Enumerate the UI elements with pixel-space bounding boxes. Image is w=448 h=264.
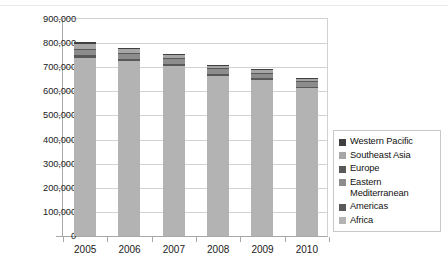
legend-item-label: Africa: [350, 215, 373, 226]
legend-swatch-icon: [339, 217, 346, 224]
bar-segment[interactable]: [251, 80, 273, 236]
bar-column[interactable]: [207, 65, 229, 236]
x-axis-tick-mark: [329, 237, 330, 242]
legend-swatch-icon: [339, 166, 346, 173]
chart-legend: Western PacificSoutheast AsiaEuropeEaste…: [333, 130, 441, 232]
legend-swatch-icon: [339, 139, 346, 146]
y-axis-tick-mark: [56, 19, 62, 20]
bar-column[interactable]: [251, 69, 273, 236]
bar-segment[interactable]: [296, 88, 318, 236]
y-axis-tick-mark: [56, 236, 62, 237]
y-axis-tick-mark: [56, 43, 62, 44]
bar-slot: [240, 19, 284, 236]
y-axis-tick-mark: [56, 115, 62, 116]
legend-item-label: Eastern Mediterranean: [350, 177, 436, 199]
stacked-bar-chart: 0100,000200,000300,000400,000500,000600,…: [0, 0, 448, 264]
legend-item[interactable]: Eastern Mediterranean: [339, 177, 436, 199]
legend-item-label: Americas: [350, 201, 388, 212]
legend-item[interactable]: Africa: [339, 215, 436, 226]
x-axis-tick-mark: [240, 237, 241, 242]
bar-column[interactable]: [74, 42, 96, 236]
y-axis-tick-mark: [56, 164, 62, 165]
legend-item-label: Europe: [350, 163, 379, 174]
bar-column[interactable]: [296, 78, 318, 236]
legend-item[interactable]: Southeast Asia: [339, 150, 436, 161]
legend-swatch-icon: [339, 152, 346, 159]
x-axis-tick-mark: [196, 237, 197, 242]
legend-item[interactable]: Western Pacific: [339, 136, 436, 147]
legend-item[interactable]: Americas: [339, 201, 436, 212]
legend-swatch-icon: [339, 179, 346, 186]
legend-item-label: Southeast Asia: [350, 150, 411, 161]
bar-segment[interactable]: [74, 58, 96, 236]
y-axis-tick-mark: [56, 188, 62, 189]
bar-column[interactable]: [163, 54, 185, 236]
bar-segment[interactable]: [163, 66, 185, 236]
bar-column[interactable]: [118, 47, 140, 236]
bar-slot: [196, 19, 240, 236]
bar-slot: [107, 19, 151, 236]
x-axis-tick-mark: [107, 237, 108, 242]
y-axis-tick-mark: [56, 67, 62, 68]
x-axis-tick-mark: [152, 237, 153, 242]
bar-slot: [285, 19, 329, 236]
bar-segment[interactable]: [207, 76, 229, 236]
legend-swatch-icon: [339, 204, 346, 211]
x-axis-tick-mark: [285, 237, 286, 242]
top-divider: [0, 5, 448, 6]
y-axis-tick-mark: [56, 212, 62, 213]
bars-layer: [63, 19, 327, 236]
legend-item[interactable]: Europe: [339, 163, 436, 174]
y-axis-tick-mark: [56, 140, 62, 141]
x-axis-tick-mark: [63, 237, 64, 242]
bar-segment[interactable]: [118, 61, 140, 236]
bar-slot: [152, 19, 196, 236]
bar-slot: [63, 19, 107, 236]
x-axis-tick-label: 2010: [277, 243, 337, 256]
y-axis-tick-mark: [56, 91, 62, 92]
legend-item-label: Western Pacific: [350, 136, 413, 147]
